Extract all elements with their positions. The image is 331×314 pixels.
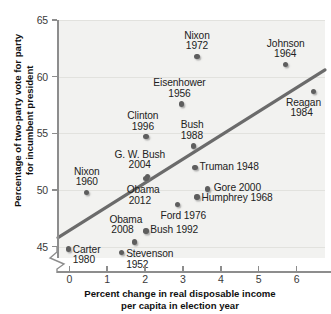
point-label-line-1: Stevenson	[126, 249, 177, 260]
point-label: Truman 1948	[200, 162, 262, 173]
x-tick-2	[144, 266, 146, 271]
point-label: Obama2008	[109, 215, 135, 236]
point-label-line-1: Humphrey 1968	[201, 193, 273, 204]
data-point	[132, 239, 137, 244]
data-point	[143, 228, 148, 233]
point-label: Bush 1992	[150, 225, 201, 236]
point-label-line-2: 2012	[127, 196, 153, 207]
point-label: Bush1988	[181, 120, 202, 141]
x-axis-title-line-1: Percent change in real disposable income	[40, 288, 320, 300]
x-tick-label-6: 6	[290, 273, 304, 285]
point-label-line-2: 1996	[124, 122, 161, 133]
data-point	[283, 62, 288, 67]
data-point	[143, 134, 148, 139]
point-label-line-2: 1960	[74, 177, 100, 188]
y-tick-60	[52, 76, 57, 78]
data-point	[179, 101, 184, 106]
point-label-line-2: 1956	[153, 89, 206, 100]
y-tick-65	[52, 19, 57, 21]
point-label-line-2: 1984	[286, 108, 318, 119]
point-label-line-1: Truman 1948	[200, 162, 262, 173]
point-label-line-2: 2008	[109, 225, 135, 236]
plot-area: Nixon1972Johnson1964Eisenhower1956Reagan…	[58, 20, 325, 258]
point-label-line-2: 1980	[73, 255, 109, 266]
x-tick-label-0: 0	[62, 273, 76, 285]
point-label: Stevenson1952	[126, 249, 177, 270]
point-label: G. W. Bush2004	[114, 150, 167, 171]
x-tick-label-1: 1	[100, 273, 114, 285]
data-point	[194, 194, 199, 199]
point-label: Humphrey 1968	[201, 193, 273, 204]
x-tick-5	[258, 266, 260, 271]
point-label-line-2: 1964	[267, 49, 304, 60]
data-point	[143, 176, 148, 181]
y-tick-45	[52, 246, 57, 248]
y-tick-50	[52, 189, 57, 191]
x-tick-label-2: 2	[138, 273, 152, 285]
x-axis-title: Percent change in real disposable income…	[40, 288, 320, 312]
point-label: Ford 1976	[160, 211, 207, 222]
data-point	[192, 165, 197, 170]
y-axis-break-icon	[48, 247, 66, 273]
point-label-line-2: 1952	[126, 260, 177, 271]
x-tick-4	[220, 266, 222, 271]
x-axis-title-line-2: per capita in election year	[40, 300, 320, 312]
data-point	[205, 186, 210, 191]
point-label: Reagan1984	[286, 98, 318, 119]
y-axis-title: Percentage of two-party vote for party f…	[12, 24, 37, 216]
point-label: Nixon1960	[74, 167, 100, 188]
point-label: Clinton1996	[124, 111, 161, 132]
y-axis-title-line-1: Percentage of two-party vote for party	[12, 24, 24, 216]
y-tick-label-45: 45	[28, 241, 48, 253]
x-tick-1	[106, 266, 108, 271]
x-tick-0	[69, 266, 71, 271]
y-tick-55	[52, 133, 57, 135]
point-label: Obama2012	[127, 185, 153, 206]
data-point	[66, 246, 71, 251]
point-label-line-2: 1988	[181, 131, 202, 142]
point-label: Eisenhower1956	[153, 78, 206, 99]
point-label-line-1: Ford 1976	[160, 211, 207, 222]
x-tick-label-5: 5	[252, 273, 266, 285]
x-tick-label-3: 3	[176, 273, 190, 285]
y-axis-title-line-2: for incumbent president	[24, 24, 36, 216]
point-label: Carter1980	[73, 245, 109, 266]
scatter-plot-figure: Nixon1972Johnson1964Eisenhower1956Reagan…	[0, 0, 331, 314]
point-label: Nixon1972	[184, 31, 210, 52]
y-axis-line	[57, 20, 59, 258]
point-label-line-1: Bush 1992	[150, 225, 201, 236]
point-label-line-2: 2004	[114, 160, 167, 171]
x-tick-label-4: 4	[214, 273, 228, 285]
point-label-line-2: 1972	[184, 41, 210, 52]
x-tick-6	[296, 266, 298, 271]
data-point	[194, 54, 199, 59]
point-label: Johnson1964	[267, 39, 304, 60]
data-point	[191, 143, 196, 148]
x-tick-3	[182, 266, 184, 271]
